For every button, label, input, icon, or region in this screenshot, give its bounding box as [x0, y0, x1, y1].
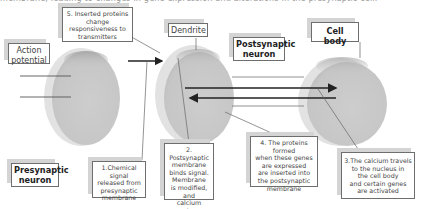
leader-step1	[142, 61, 147, 160]
action-potential-label: Action potential	[8, 43, 50, 64]
step5-callout: 5. Inserted proteins change responsivene…	[62, 7, 133, 42]
leader-step4	[225, 112, 276, 135]
step1-callout: 1.Chemical signal released from presynap…	[92, 161, 146, 198]
step4-callout: 4. The proteins formed when these genes …	[250, 136, 318, 187]
dendrite-cell	[155, 45, 234, 145]
step3-callout: 3.The calcium travels to the nucleus in …	[341, 152, 415, 199]
cell-body-label: Cell body	[311, 22, 359, 42]
cell-body-cell	[298, 57, 387, 146]
step2-callout: 2. Postsynaptic membrane binds signal. M…	[164, 143, 214, 200]
presynaptic-neuron-label: Presynaptic neuron	[11, 163, 59, 187]
postsynaptic-neuron-label: Postsynaptic neuron	[233, 37, 285, 61]
dendrite-label: Dendrite	[168, 23, 208, 37]
